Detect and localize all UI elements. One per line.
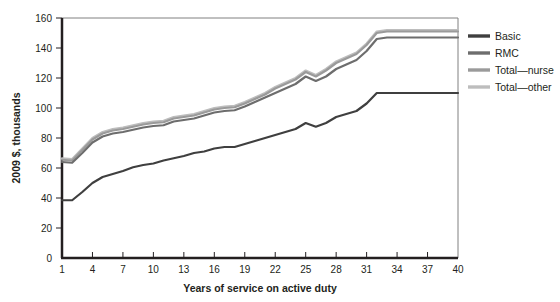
x-tick-label: 22: [270, 264, 282, 275]
x-tick-label: 1: [59, 264, 65, 275]
x-tick-label: 13: [178, 264, 190, 275]
legend-label: Total—other: [495, 81, 552, 93]
x-tick-label: 19: [239, 264, 251, 275]
y-tick-label: 160: [35, 13, 52, 24]
legend-item[interactable]: Basic: [468, 30, 521, 42]
y-tick-label: 60: [41, 163, 53, 174]
x-tick-label: 28: [331, 264, 343, 275]
legend-label: RMC: [495, 47, 519, 59]
y-axis-title: 2009 $, thousands: [10, 92, 22, 183]
legend-label: Basic: [495, 30, 521, 42]
x-tick-label: 31: [361, 264, 373, 275]
series-line-rmc: [62, 38, 458, 163]
x-tick-label: 7: [120, 264, 126, 275]
x-tick-label: 40: [452, 264, 464, 275]
x-tick-label: 34: [392, 264, 404, 275]
x-axis-title: Years of service on active duty: [183, 282, 337, 294]
y-tick-label: 0: [46, 253, 52, 264]
legend-item[interactable]: Total—nurse: [468, 64, 554, 76]
series-line-total-nurse: [62, 32, 458, 161]
y-tick-label: 100: [35, 103, 52, 114]
legend-item[interactable]: RMC: [468, 47, 519, 59]
y-tick-label: 20: [41, 223, 53, 234]
x-tick-label: 10: [148, 264, 160, 275]
series-line-basic: [62, 93, 458, 200]
legend-label: Total—nurse: [495, 64, 554, 76]
y-tick-label: 80: [41, 133, 53, 144]
y-tick-label: 120: [35, 73, 52, 84]
x-tick-label: 37: [422, 264, 434, 275]
line-chart: 0204060801001201401601471013161922252831…: [0, 0, 560, 302]
x-tick-label: 16: [209, 264, 221, 275]
y-tick-label: 40: [41, 193, 53, 204]
y-tick-label: 140: [35, 43, 52, 54]
legend-item[interactable]: Total—other: [468, 81, 552, 93]
chart-container: 0204060801001201401601471013161922252831…: [0, 0, 560, 302]
x-tick-label: 25: [300, 264, 312, 275]
x-tick-label: 4: [90, 264, 96, 275]
